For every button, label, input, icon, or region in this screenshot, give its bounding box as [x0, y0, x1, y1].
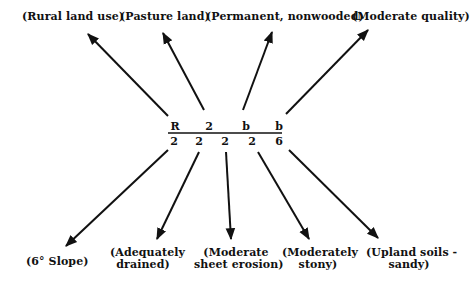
arrow-erosion	[226, 152, 231, 239]
label-stoniness: (Moderately stony)	[282, 247, 354, 271]
label-drainage: (Adequately drained)	[110, 247, 176, 271]
label-rural-land-use: (Rural land use)	[22, 11, 124, 23]
formula-denominator-soil: 6	[273, 136, 285, 147]
formula-denominator-slope: 2	[168, 136, 180, 147]
arrow-moderate-quality	[286, 30, 368, 114]
label-soil-type: (Upland soils - sandy)	[366, 247, 452, 271]
arrow-permanent-nonwooded	[243, 32, 272, 110]
arrow-pasture-land	[163, 33, 204, 110]
label-erosion-line2: sheet erosion)	[194, 259, 278, 271]
arrow-rural-land-use	[88, 34, 168, 116]
label-moderate-quality: (Moderate quality)	[352, 11, 470, 23]
label-stoniness-line2: stony)	[282, 259, 354, 271]
label-permanent-nonwooded: (Permanent, nonwooded)	[206, 11, 364, 23]
label-slope-line1: (6° Slope)	[26, 256, 80, 268]
arrow-stoniness	[258, 152, 309, 239]
arrow-slope	[66, 150, 168, 246]
arrow-soil-type	[289, 150, 378, 238]
formula-denominator-erosion: 2	[219, 136, 231, 147]
formula-denominator-stoniness: 2	[246, 136, 258, 147]
formula-numerator-pasture: 2	[203, 121, 215, 132]
label-pasture-land: (Pasture land)	[120, 11, 210, 23]
formula-numerator-permanent: b	[240, 121, 252, 132]
arrow-drainage	[157, 152, 199, 239]
formula-denominator-drainage: 2	[193, 136, 205, 147]
label-slope: (6° Slope)	[26, 256, 80, 268]
label-soil-type-line2: sandy)	[366, 259, 452, 271]
formula-numerator-land-use: R	[169, 121, 181, 132]
label-erosion: (Moderate sheet erosion)	[194, 247, 278, 271]
label-drainage-line2: drained)	[110, 259, 176, 271]
formula-numerator-quality: b	[273, 121, 285, 132]
